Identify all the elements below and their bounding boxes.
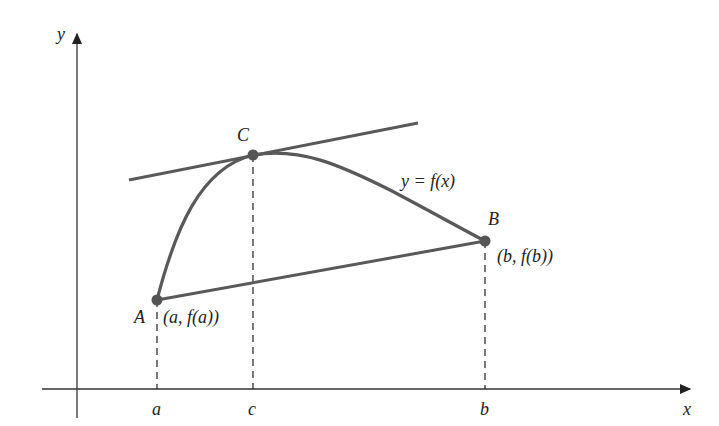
- point-b-label: B: [488, 209, 499, 229]
- x-tick-b: b: [480, 399, 489, 419]
- y-axis-label: y: [55, 24, 65, 44]
- point-a: [152, 295, 163, 306]
- point-b-coord-label: (b, f(b)): [497, 246, 553, 267]
- x-tick-c: c: [248, 399, 256, 419]
- secant-line: [157, 241, 485, 300]
- mvt-diagram: y x C B A (a, f(a)) (b, f(b)) y = f(x) a…: [0, 0, 719, 426]
- curve-label: y = f(x): [399, 171, 455, 192]
- point-c: [248, 150, 259, 161]
- point-a-coord-label: (a, f(a)): [163, 307, 219, 328]
- x-axis-label: x: [682, 399, 691, 419]
- point-c-label: C: [237, 125, 250, 145]
- point-b: [480, 236, 491, 247]
- tangent-line: [129, 123, 418, 180]
- x-tick-a: a: [152, 399, 161, 419]
- point-a-label: A: [133, 307, 146, 327]
